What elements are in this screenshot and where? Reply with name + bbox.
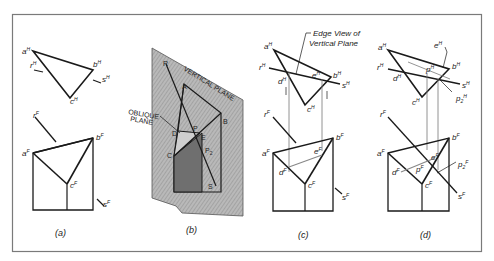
svg-text:rH: rH [377,62,384,72]
panel-b: R A B C D P E P2 S VERTICAL PLANE OBLIQU… [128,48,243,235]
svg-text:bF: bF [452,132,460,142]
svg-text:rF: rF [264,109,271,119]
svg-text:p2H: p2H [455,93,467,104]
svg-text:pF: pF [415,164,424,174]
svg-text:rH: rH [259,62,266,72]
svg-text:dF: dF [279,167,287,177]
svg-text:bH: bH [333,70,341,80]
svg-text:aH: aH [378,42,386,52]
triangle-edge-ab-frontal [33,138,93,153]
svg-text:rF: rF [380,109,387,119]
leader-e [445,47,447,52]
svg-text:cH: cH [70,96,78,106]
svg-text:sF: sF [458,191,466,201]
svg-text:bH: bH [93,59,101,69]
figure-frame [13,15,482,252]
line-rs-frontal-s [335,188,342,194]
svg-text:p2F: p2F [457,159,469,170]
line-rs-frontal-r [35,117,56,142]
svg-text:aH: aH [22,46,30,56]
triangle-edge-bc-frontal [67,138,93,184]
triangle-edge-bc-frontal [422,138,449,184]
svg-text:P: P [193,125,198,132]
line-rs-frontal-r [273,117,296,143]
svg-text:aF: aF [262,148,270,158]
svg-text:dH: dH [278,76,286,86]
triangle-edge-ac-frontal [33,153,67,184]
leader-e2 [443,52,447,68]
svg-text:bF: bF [96,132,104,142]
svg-text:cF: cF [70,180,78,190]
svg-text:eF: eF [314,146,322,156]
svg-text:eH: eH [434,40,442,50]
svg-text:cH: cH [412,97,420,107]
svg-text:dH: dH [393,73,401,83]
leader-edge-view [296,33,306,74]
svg-text:S: S [208,183,213,190]
svg-text:C: C [167,152,172,159]
svg-text:A: A [182,83,187,90]
caption-d: (d) [420,230,431,240]
panel-a [33,51,104,210]
svg-text:dF: dF [392,167,400,177]
descriptive-geometry-figure: aH bH cH rH sH rF aF bF cF sF (a) R A B [0,0,494,261]
svg-text:eH: eH [312,70,320,80]
svg-text:aF: aF [22,148,30,158]
svg-text:cH: cH [307,104,315,114]
line-rs-horizontal-s [93,80,101,83]
svg-text:cF: cF [425,180,433,190]
panel-d [388,47,460,211]
svg-text:sF: sF [342,192,350,202]
svg-text:sH: sH [342,80,350,90]
panel-c-labels: Edge View of Vertical Plane aH bH cH dH … [259,29,361,240]
annotation-edge-view-2: Vertical Plane [309,39,359,48]
figure-stage: aH bH cH rH sH rF aF bF cF sF (a) R A B [0,0,494,261]
svg-text:aF: aF [377,148,385,158]
caption-c: (c) [298,230,309,240]
triangle-edge-bc-frontal [305,138,333,184]
svg-text:R: R [163,60,168,67]
leader-p2-frontal [437,162,456,173]
caption-a: (a) [55,228,66,238]
caption-b: (b) [186,225,197,235]
svg-text:sH: sH [102,74,110,84]
panel-c [269,33,342,211]
svg-text:D: D [172,130,177,137]
triangle-abc-horizontal [33,51,93,98]
annotation-edge-view-1: Edge View of [313,29,361,38]
svg-text:sF: sF [103,199,111,209]
svg-text:E: E [201,134,206,141]
prism-front-outline [33,138,93,210]
svg-text:rH: rH [30,60,37,70]
svg-text:bH: bH [452,61,460,71]
svg-text:B: B [223,118,228,125]
line-rs-horizontal-r [34,70,43,72]
svg-text:bF: bF [336,132,344,142]
svg-text:aH: aH [264,41,272,51]
svg-text:sH: sH [462,80,470,90]
svg-text:cF: cF [308,180,316,190]
